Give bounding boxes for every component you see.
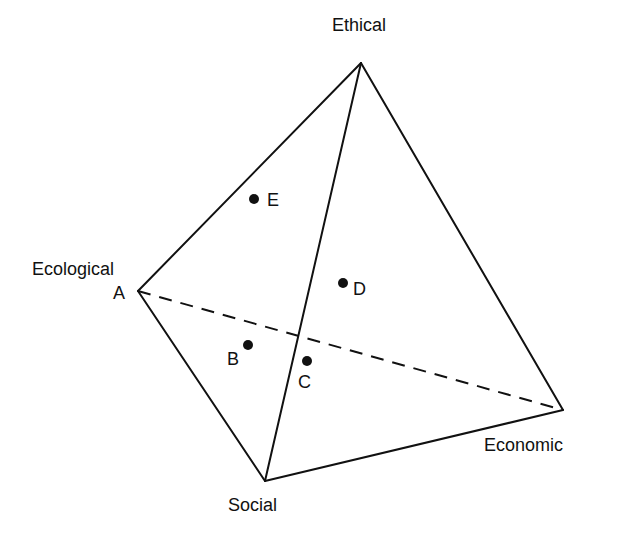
point-c-marker — [302, 356, 312, 366]
edge-ecological-social — [138, 291, 265, 481]
point-label-d: D — [353, 279, 366, 299]
point-label-b: B — [227, 349, 239, 369]
edge-ethical-economic — [361, 63, 563, 410]
edge-ethical-social — [265, 63, 361, 481]
data-points — [243, 194, 348, 366]
edge-ethical-ecological — [138, 63, 361, 291]
vertex-label-economic: Economic — [484, 435, 563, 455]
tetrahedron-diagram: Ethical Ecological A Economic Social E D… — [0, 0, 619, 538]
edges — [138, 63, 563, 481]
vertex-letter-a: A — [113, 283, 125, 303]
point-label-c: C — [298, 372, 311, 392]
vertex-label-social: Social — [228, 495, 277, 515]
point-e-marker — [249, 194, 259, 204]
point-d-marker — [338, 278, 348, 288]
point-label-e: E — [267, 190, 279, 210]
edge-ecological-economic-dashed — [138, 291, 563, 410]
vertex-label-ecological: Ecological — [32, 259, 114, 279]
point-b-marker — [243, 340, 253, 350]
vertex-label-ethical: Ethical — [332, 15, 386, 35]
